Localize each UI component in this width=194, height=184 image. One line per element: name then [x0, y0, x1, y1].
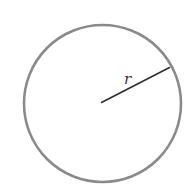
radius-label: r: [124, 70, 132, 88]
radius-line: [102, 68, 170, 103]
circle-outline: [24, 25, 181, 182]
circle-diagram: r: [0, 0, 194, 184]
